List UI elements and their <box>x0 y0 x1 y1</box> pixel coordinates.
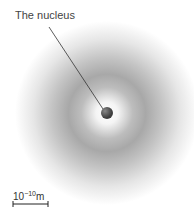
scale-unit: m <box>36 191 44 202</box>
scale-base: 10 <box>13 191 24 202</box>
scale-bar-label: 10−10m <box>13 190 44 202</box>
scale-exponent: −10 <box>24 190 36 197</box>
nucleus-label: The nucleus <box>15 9 75 21</box>
electron-cloud-diagram <box>0 0 194 213</box>
nucleus <box>101 107 113 119</box>
